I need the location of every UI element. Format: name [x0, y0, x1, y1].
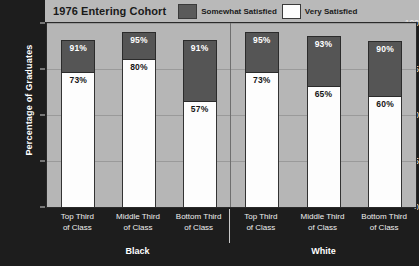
legend-swatch-somewhat-icon [178, 4, 197, 19]
bar-value-total: 95% [246, 35, 278, 45]
bar-segment-very-satisfied[interactable]: 73% [245, 73, 279, 207]
x-axis-label: Top Thirdof Class [47, 211, 108, 233]
y-axis-tick-mark [40, 23, 45, 24]
chart-screenshot: 1976 Entering Cohort Somewhat Satisfied … [0, 0, 419, 266]
x-axis-label-line1: Top Third [230, 211, 292, 222]
x-axis-label-line2: of Class [353, 222, 415, 233]
x-axis-label: Middle Thirdof Class [108, 211, 169, 233]
x-axis-label-line1: Middle Third [108, 211, 169, 222]
bar-white-0[interactable]: 73%95% [245, 32, 279, 207]
x-axis-label: Bottom Thirdof Class [168, 211, 229, 233]
legend-swatch-very-icon [282, 4, 301, 19]
plot-area: 73%91%80%95%57%91%73%95%65%93%60%90% [46, 22, 417, 208]
group-label-black: Black [46, 246, 229, 256]
bar-value-very-satisfied: 60% [369, 99, 401, 109]
bar-value-total: 91% [62, 43, 94, 53]
legend-label-very: Very Satisfied [305, 7, 357, 16]
group-labels: Black White [46, 243, 417, 266]
bar-value-very-satisfied: 80% [123, 62, 155, 72]
bar-white-1[interactable]: 65%93% [307, 36, 341, 207]
bar-value-very-satisfied: 73% [62, 75, 94, 85]
y-axis-tick-mark [40, 207, 45, 208]
x-axis-label-line2: of Class [168, 222, 229, 233]
bar-segment-somewhat-satisfied[interactable]: 91% [61, 40, 95, 73]
x-axis-labels: Top Thirdof ClassMiddle Thirdof ClassBot… [46, 209, 417, 243]
bar-segment-very-satisfied[interactable]: 57% [183, 102, 217, 207]
bar-segment-very-satisfied[interactable]: 65% [307, 87, 341, 207]
x-axis-label-line1: Bottom Third [353, 211, 415, 222]
bar-value-total: 90% [369, 44, 401, 54]
bar-value-total: 93% [308, 39, 340, 49]
bar-segment-very-satisfied[interactable]: 60% [368, 97, 402, 207]
x-axis-label-line2: of Class [230, 222, 292, 233]
x-axis-label-line2: of Class [108, 222, 169, 233]
x-axis-label-line2: of Class [47, 222, 108, 233]
bar-black-0[interactable]: 73%91% [61, 40, 95, 207]
bar-value-total: 95% [123, 35, 155, 45]
group-label-white: White [230, 246, 417, 256]
bar-segment-somewhat-satisfied[interactable]: 90% [368, 41, 402, 96]
chart-header: 1976 Entering Cohort Somewhat Satisfied … [45, 0, 419, 22]
bar-segment-somewhat-satisfied[interactable]: 95% [245, 32, 279, 72]
bar-value-very-satisfied: 73% [246, 75, 278, 85]
chart-title: 1976 Entering Cohort [53, 5, 166, 17]
x-axis-label-line1: Middle Third [292, 211, 354, 222]
group-divider [230, 23, 231, 207]
x-axis-label: Middle Thirdof Class [292, 211, 354, 233]
gridline [47, 23, 416, 24]
bar-black-1[interactable]: 80%95% [122, 32, 156, 207]
chart-legend: Somewhat Satisfied Very Satisfied [178, 4, 357, 19]
y-axis-tick-mark [40, 69, 45, 70]
x-axis-label-line1: Top Third [47, 211, 108, 222]
legend-item-very-satisfied: Very Satisfied [282, 4, 357, 19]
bar-segment-very-satisfied[interactable]: 80% [122, 60, 156, 207]
x-axis-label: Bottom Thirdof Class [353, 211, 415, 233]
bar-segment-somewhat-satisfied[interactable]: 95% [122, 32, 156, 60]
gridline [47, 69, 416, 70]
legend-label-somewhat: Somewhat Satisfied [201, 7, 277, 16]
legend-item-somewhat-satisfied: Somewhat Satisfied [178, 4, 277, 19]
bar-value-total: 91% [184, 43, 216, 53]
bar-segment-very-satisfied[interactable]: 73% [61, 73, 95, 207]
y-axis-title: Percentage of Graduates [24, 25, 34, 175]
bar-value-very-satisfied: 57% [184, 104, 216, 114]
x-axis-label-line1: Bottom Third [168, 211, 229, 222]
x-axis-label: Top Thirdof Class [230, 211, 292, 233]
bar-value-very-satisfied: 65% [308, 89, 340, 99]
y-axis-tick-mark [40, 161, 45, 162]
bar-segment-somewhat-satisfied[interactable]: 91% [183, 40, 217, 103]
bar-black-2[interactable]: 57%91% [183, 40, 217, 207]
gridline [47, 115, 416, 116]
gridline [47, 161, 416, 162]
x-axis-label-line2: of Class [292, 222, 354, 233]
bar-white-2[interactable]: 60%90% [368, 41, 402, 207]
y-axis-tick-mark [40, 115, 45, 116]
bar-segment-somewhat-satisfied[interactable]: 93% [307, 36, 341, 88]
x-axis-group-divider [229, 209, 230, 243]
